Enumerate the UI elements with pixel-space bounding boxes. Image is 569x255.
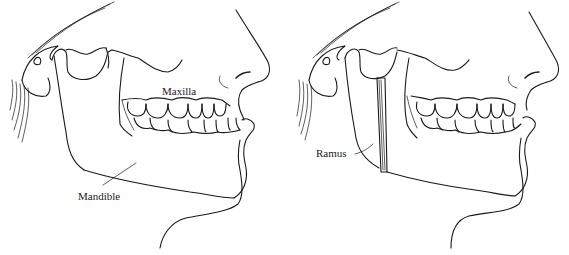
- label-mandible: Mandible: [78, 191, 120, 202]
- label-ramus: Ramus: [316, 148, 347, 159]
- left-jaw-diagram: Maxilla Mandible: [0, 0, 285, 255]
- label-maxilla: Maxilla: [162, 86, 196, 97]
- jaw-profile-drawing-left: [0, 0, 285, 255]
- right-jaw-diagram: Ramus: [285, 0, 569, 255]
- jaw-profile-drawing-right: [285, 0, 569, 255]
